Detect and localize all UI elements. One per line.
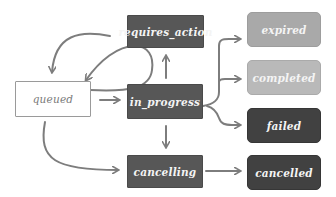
- node-queued: queued: [15, 81, 91, 117]
- node-cancelled: cancelled: [247, 155, 321, 190]
- node-in-progress: in_progress: [127, 84, 203, 119]
- node-requires-action: requires_action: [127, 15, 204, 48]
- node-cancelling: cancelling: [127, 155, 203, 188]
- node-failed: failed: [247, 108, 321, 143]
- node-failed-label: failed: [267, 120, 302, 132]
- node-in-progress-label: in_progress: [130, 96, 200, 108]
- edge-in-progress-to-failed: [207, 106, 240, 125]
- node-cancelled-label: cancelled: [255, 167, 313, 179]
- node-completed-label: completed: [252, 72, 315, 84]
- edge-queued-to-cancelling: [44, 122, 118, 170]
- edge-requires-action-to-queued: [52, 34, 110, 72]
- node-requires-action-label: requires_action: [118, 26, 212, 38]
- edge-in-progress-to-completed: [219, 79, 240, 82]
- node-completed: completed: [247, 60, 321, 95]
- node-queued-label: queued: [33, 93, 74, 105]
- node-cancelling-label: cancelling: [134, 166, 197, 178]
- edge-in-progress-to-expired: [203, 39, 240, 106]
- node-expired: expired: [247, 12, 321, 47]
- node-expired-label: expired: [261, 24, 306, 36]
